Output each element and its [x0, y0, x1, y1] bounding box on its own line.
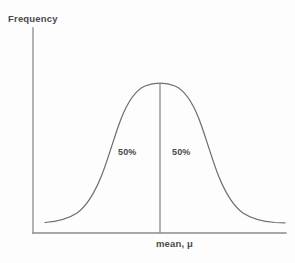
chart-canvas [0, 0, 295, 263]
y-axis-label: Frequency [8, 13, 58, 24]
percent-label-right: 50% [172, 147, 191, 157]
normal-distribution-figure: Frequency mean, μ 50% 50% [0, 0, 295, 263]
percent-label-left: 50% [118, 147, 137, 157]
normal-distribution-curve [45, 83, 285, 223]
x-axis-label: mean, μ [27, 238, 295, 249]
